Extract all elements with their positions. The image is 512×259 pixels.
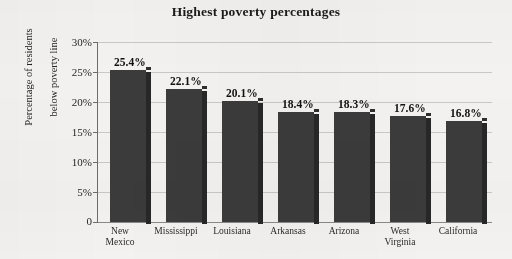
bar-top-face	[314, 109, 319, 112]
x-tick-label-west-virginia: West Virginia	[372, 226, 428, 248]
bar-top-face	[482, 118, 487, 121]
chart-figure: Highest poverty percentages Percentage o…	[0, 0, 512, 259]
bar-side-face	[370, 114, 375, 224]
chart-title: Highest poverty percentages	[0, 4, 512, 20]
bar-louisiana[interactable]: 20.1%	[222, 101, 258, 222]
x-tick-label-line: Virginia	[372, 237, 428, 248]
y-tick-label-25: 25%	[32, 66, 92, 78]
x-tick-label-line: Louisiana	[204, 226, 260, 237]
bar-front	[390, 116, 426, 222]
bar-front	[278, 112, 314, 222]
x-tick-label-line: West	[372, 226, 428, 237]
bar-top-face	[370, 109, 375, 112]
bar-front	[222, 101, 258, 222]
bar-side-face	[146, 72, 151, 224]
y-tick-label-5: 5%	[32, 186, 92, 198]
bar-side-face	[202, 91, 207, 224]
bar-west-virginia[interactable]: 17.6%	[390, 116, 426, 222]
y-tick-label-20: 20%	[32, 96, 92, 108]
x-axis-line	[98, 222, 492, 223]
gridline-30	[98, 42, 492, 43]
x-tick-label-line: Mississippi	[148, 226, 204, 237]
x-tick-label-line: California	[428, 226, 488, 237]
gridline-25	[98, 72, 492, 73]
bar-side-face	[314, 114, 319, 224]
bar-side-face	[426, 118, 431, 224]
bar-arizona[interactable]: 18.3%	[334, 112, 370, 222]
x-tick-label-line: Arkansas	[260, 226, 316, 237]
bar-value-label: 16.8%	[450, 107, 482, 119]
bar-top-face	[426, 113, 431, 116]
bar-value-label: 18.4%	[282, 98, 314, 110]
bar-top-face	[202, 86, 207, 89]
y-tick-label-30: 30%	[32, 36, 92, 48]
bar-top-face	[258, 98, 263, 101]
y-tick-label-10: 10%	[32, 156, 92, 168]
bar-new-mexico[interactable]: 25.4%	[110, 70, 146, 222]
bar-side-face	[258, 103, 263, 224]
y-tick-label-0: 0	[32, 215, 92, 227]
y-tick-label-15: 15%	[32, 126, 92, 138]
bar-value-label: 17.6%	[394, 102, 426, 114]
x-tick-label-louisiana: Louisiana	[204, 226, 260, 237]
x-tick-label-line: Arizona	[316, 226, 372, 237]
x-tick-label-arizona: Arizona	[316, 226, 372, 237]
bar-side-face	[482, 123, 487, 224]
bar-top-face	[146, 67, 151, 70]
plot-area: 25.4% 22.1% 20.1% 18.4% 18.3%	[98, 42, 492, 222]
x-tick-label-california: California	[428, 226, 488, 237]
bar-front	[166, 89, 202, 222]
x-tick-label-mississippi: Mississippi	[148, 226, 204, 237]
bar-front	[334, 112, 370, 222]
bar-mississippi[interactable]: 22.1%	[166, 89, 202, 222]
bar-front	[110, 70, 146, 222]
x-tick-label-new-mexico: New Mexico	[92, 226, 148, 248]
bar-arkansas[interactable]: 18.4%	[278, 112, 314, 222]
bar-value-label: 20.1%	[226, 87, 258, 99]
x-tick-label-arkansas: Arkansas	[260, 226, 316, 237]
bar-california[interactable]: 16.8%	[446, 121, 482, 222]
bar-value-label: 22.1%	[170, 75, 202, 87]
bar-value-label: 18.3%	[338, 98, 370, 110]
x-tick-label-line: New	[92, 226, 148, 237]
x-tick-label-line: Mexico	[92, 237, 148, 248]
bar-value-label: 25.4%	[114, 56, 146, 68]
bar-front	[446, 121, 482, 222]
